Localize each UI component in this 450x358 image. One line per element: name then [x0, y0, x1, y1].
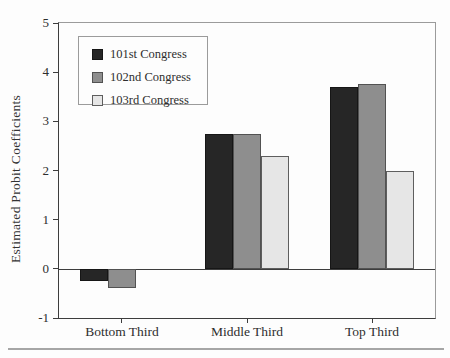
x-tick-middle-third: [247, 319, 248, 323]
legend-swatch-102nd: [92, 72, 103, 83]
y-tick-5: [53, 23, 59, 24]
y-tick-label-2: 2: [19, 162, 49, 180]
legend-item-101st: 101st Congress: [92, 43, 207, 66]
bar-102nd-congress-middle-third: [233, 134, 261, 269]
y-tick-label-0: 0: [19, 260, 49, 278]
legend-label-101st: 101st Congress: [110, 47, 187, 62]
legend-swatch-101st: [92, 49, 103, 60]
x-tick-top-third: [372, 319, 373, 323]
probit-coefficients-bar-chart: Estimated Probit Coefficients 543210-1 1…: [0, 0, 450, 358]
y-tick-1: [53, 219, 59, 220]
y-tick-4: [53, 72, 59, 73]
bar-101st-congress-top-third: [330, 87, 358, 269]
bar-103rd-congress-middle-third: [261, 156, 289, 269]
bar-103rd-congress-top-third: [386, 171, 414, 269]
x-category-label-bottom-third: Bottom Third: [52, 324, 192, 340]
x-category-label-top-third: Top Third: [302, 324, 442, 340]
bar-102nd-congress-top-third: [358, 84, 386, 268]
bar-101st-congress-bottom-third: [80, 269, 108, 281]
y-tick-3: [53, 121, 59, 122]
bar-102nd-congress-bottom-third: [108, 269, 136, 289]
legend: 101st Congress 102nd Congress 103rd Cong…: [78, 36, 208, 105]
y-tick-0: [53, 268, 59, 269]
y-tick-label-1: 1: [19, 211, 49, 229]
y-tick-2: [53, 170, 59, 171]
y-tick-label-4: 4: [19, 63, 49, 81]
legend-label-103rd: 103rd Congress: [110, 93, 189, 108]
x-tick-bottom-third: [121, 319, 122, 323]
legend-item-103rd: 103rd Congress: [92, 89, 207, 112]
y-tick-label-5: 5: [19, 14, 49, 32]
y-tick-label--1: -1: [19, 309, 49, 327]
legend-label-102nd: 102nd Congress: [110, 70, 191, 85]
legend-item-102nd: 102nd Congress: [92, 66, 207, 89]
x-category-label-middle-third: Middle Third: [177, 324, 317, 340]
figure-bottom-rule: [8, 348, 444, 350]
y-tick-label-3: 3: [19, 112, 49, 130]
y-tick--1: [53, 318, 59, 319]
legend-swatch-103rd: [92, 95, 103, 106]
bar-101st-congress-middle-third: [205, 134, 233, 269]
